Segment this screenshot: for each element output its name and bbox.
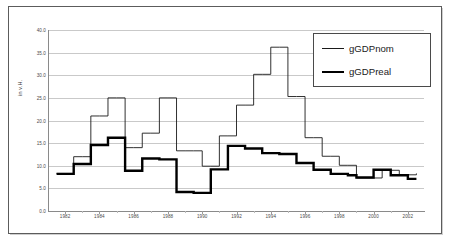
x-tick-label: 1988 xyxy=(163,214,174,219)
x-tick-label: 1984 xyxy=(94,214,105,219)
y-tick-label: 15.0 xyxy=(37,141,46,146)
x-tick-mark xyxy=(339,211,340,214)
x-tick-mark-minor xyxy=(151,211,152,213)
x-tick-mark-minor xyxy=(117,211,118,213)
y-tick-label: 35.0 xyxy=(37,50,46,55)
x-tick-label: 1990 xyxy=(197,214,208,219)
legend-label-ggdpreal: gGDPreal xyxy=(349,66,391,77)
x-tick-mark xyxy=(271,211,272,214)
y-tick-label: 30.0 xyxy=(37,73,46,78)
x-tick-mark xyxy=(202,211,203,214)
y-tick-label: 0.0 xyxy=(39,209,46,214)
legend-swatch-ggdpnom-icon xyxy=(322,48,344,49)
x-tick-mark-minor xyxy=(82,211,83,213)
x-tick-mark xyxy=(99,211,100,214)
x-tick-mark xyxy=(134,211,135,214)
x-axis-tick-labels: 1982198419861988199019921994199619982000… xyxy=(48,214,425,226)
series-line-ggdpreal xyxy=(57,138,417,193)
x-tick-label: 1982 xyxy=(60,214,71,219)
x-tick-mark-minor xyxy=(391,211,392,213)
y-axis-tick-labels: 0.05.010.015.020.025.030.035.040.0 xyxy=(24,30,46,211)
x-tick-label: 2002 xyxy=(403,214,414,219)
x-tick-label: 1996 xyxy=(300,214,311,219)
x-tick-mark xyxy=(305,211,306,214)
x-tick-mark xyxy=(374,211,375,214)
x-tick-label: 2000 xyxy=(368,214,379,219)
y-tick-label: 5.0 xyxy=(39,186,46,191)
x-tick-label: 1998 xyxy=(334,214,345,219)
x-tick-label: 1986 xyxy=(128,214,139,219)
x-tick-mark-minor xyxy=(356,211,357,213)
x-tick-mark xyxy=(237,211,238,214)
y-tick-label: 20.0 xyxy=(37,118,46,123)
y-tick-label: 25.0 xyxy=(37,95,46,100)
page-bleed-text: · · · xyxy=(60,0,87,4)
x-tick-label: 1992 xyxy=(231,214,242,219)
legend-item-ggdpreal[interactable]: gGDPreal xyxy=(322,66,391,77)
x-tick-mark xyxy=(408,211,409,214)
x-tick-mark xyxy=(65,211,66,214)
y-tick-label: 40.0 xyxy=(37,28,46,33)
figure-container: · · · in v.H. 0.05.010.015.020.025.030.0… xyxy=(0,0,450,247)
chart-legend: gGDPnom gGDPreal xyxy=(313,33,431,87)
x-tick-mark-minor xyxy=(322,211,323,213)
x-tick-mark-minor xyxy=(219,211,220,213)
legend-swatch-ggdpreal-icon xyxy=(322,71,344,73)
x-tick-mark-minor xyxy=(254,211,255,213)
y-tick-label: 10.0 xyxy=(37,163,46,168)
legend-item-ggdpnom[interactable]: gGDPnom xyxy=(322,43,394,54)
y-axis-title: in v.H. xyxy=(17,80,23,96)
x-tick-mark xyxy=(168,211,169,214)
x-tick-mark-minor xyxy=(288,211,289,213)
x-tick-mark-minor xyxy=(185,211,186,213)
legend-label-ggdpnom: gGDPnom xyxy=(349,43,394,54)
x-tick-label: 1994 xyxy=(265,214,276,219)
